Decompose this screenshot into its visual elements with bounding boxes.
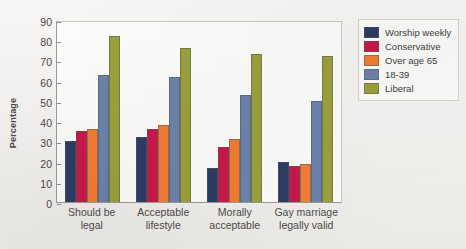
y-tick-label: 40 [40, 117, 57, 129]
bar [109, 36, 120, 202]
bar [229, 139, 240, 202]
x-tick-label: Morallyacceptable [199, 206, 271, 231]
bar [147, 129, 158, 202]
legend-label: Liberal [385, 83, 414, 94]
legend-swatch [364, 69, 379, 80]
bar [311, 101, 322, 202]
legend-item: Conservative [364, 39, 453, 53]
legend-label: Worship weekly [385, 27, 451, 38]
legend-swatch [364, 41, 379, 52]
y-tick-label: 60 [40, 77, 57, 89]
bar [218, 147, 229, 202]
bar [300, 164, 311, 202]
bar [136, 137, 147, 202]
legend-label: Over age 65 [385, 55, 437, 66]
legend-label: Conservative [385, 41, 440, 52]
legend-swatch [364, 55, 379, 66]
y-tick-label: 70 [40, 56, 57, 68]
bar [278, 162, 289, 202]
bar-groups [57, 22, 341, 202]
legend: Worship weeklyConservativeOver age 6518-… [358, 19, 459, 101]
bar-group [136, 22, 191, 202]
bar-group [278, 22, 333, 202]
bar-group [207, 22, 262, 202]
bar [289, 166, 300, 202]
y-tick-label: 90 [40, 16, 57, 28]
bar [158, 125, 169, 202]
bar [87, 129, 98, 202]
bar [169, 77, 180, 202]
bar [251, 54, 262, 202]
legend-item: 18-39 [364, 67, 453, 81]
x-axis-labels: Should belegalAcceptablelifestyleMorally… [56, 206, 342, 231]
plot-area: 0102030405060708090 [56, 21, 342, 203]
bar-group [65, 22, 120, 202]
bar [98, 75, 109, 202]
x-tick-label: Should belegal [56, 206, 128, 231]
legend-item: Worship weekly [364, 25, 453, 39]
y-tick-label: 10 [40, 178, 57, 190]
y-tick-label: 80 [40, 36, 57, 48]
bar [65, 141, 76, 202]
bar [240, 95, 251, 202]
legend-swatch [364, 83, 379, 94]
y-axis-title: Percentage [8, 78, 18, 168]
legend-item: Liberal [364, 81, 453, 95]
bar [180, 48, 191, 202]
bar [322, 56, 333, 202]
bar-chart: Percentage 0102030405060708090 Should be… [0, 0, 466, 249]
y-tick-label: 20 [40, 158, 57, 170]
legend-item: Over age 65 [364, 53, 453, 67]
y-tick-label: 50 [40, 97, 57, 109]
x-tick-label: Gay marriagelegally valid [271, 206, 343, 231]
bar [207, 168, 218, 202]
legend-label: 18-39 [385, 69, 409, 80]
y-tick-label: 30 [40, 137, 57, 149]
bar [76, 131, 87, 202]
legend-swatch [364, 27, 379, 38]
x-tick-label: Acceptablelifestyle [128, 206, 200, 231]
